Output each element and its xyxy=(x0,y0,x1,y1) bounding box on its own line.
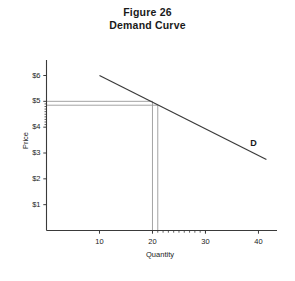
demand-line xyxy=(99,76,266,160)
y-tick-label: $2 xyxy=(19,174,41,183)
x-tick-label: 30 xyxy=(195,237,215,246)
axis-lines xyxy=(47,60,278,231)
y-tick-label: $1 xyxy=(19,200,41,209)
x-tick-label: 40 xyxy=(248,237,268,246)
x-axis-label: Quantity xyxy=(110,250,210,259)
y-tick-label: $3 xyxy=(19,148,41,157)
y-tick-label: $4 xyxy=(19,122,41,131)
y-tick-label: $6 xyxy=(19,71,41,80)
y-tick-label: $5 xyxy=(19,96,41,105)
axis-ticks xyxy=(43,76,258,234)
x-tick-label: 10 xyxy=(89,237,109,246)
series-D xyxy=(99,76,266,160)
x-tick-label: 20 xyxy=(142,237,162,246)
guide-lines xyxy=(47,101,158,230)
demand-curve-figure: Figure 26 Demand Curve Price Quantity $1… xyxy=(0,0,295,281)
series-label-D: D xyxy=(250,138,257,148)
